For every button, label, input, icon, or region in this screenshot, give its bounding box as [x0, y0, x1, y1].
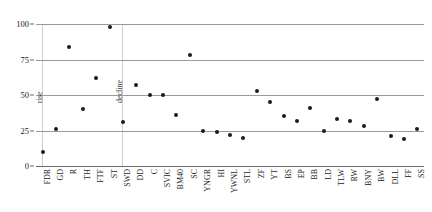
data-point	[174, 113, 178, 117]
x-tick-label-st: ST	[110, 169, 119, 178]
y-tick-label-25: 25	[21, 126, 30, 136]
y-tick-mark-50	[30, 95, 34, 96]
plot-area: risedecline	[36, 24, 424, 166]
x-tick-label-dll: DLL	[391, 169, 400, 185]
data-point	[335, 117, 339, 121]
data-point	[161, 93, 165, 97]
x-tick-label-svic: SVIC	[163, 169, 172, 187]
data-point	[348, 119, 352, 123]
data-point	[282, 114, 286, 118]
data-point	[201, 129, 205, 133]
data-point	[121, 120, 125, 124]
scatter-chart: 0255075100 risedecline FDRGDRTHFTFSTSWDD…	[0, 0, 432, 212]
x-tick-label-stl: STL	[243, 169, 252, 183]
x-tick-label-dd: DD	[136, 169, 145, 181]
data-point	[148, 93, 152, 97]
x-tick-label-yngr: YNGR	[203, 169, 212, 192]
x-tick-label-ywnl: YWNL	[230, 169, 239, 193]
x-tick-label-r: R	[69, 169, 78, 174]
x-tick-label-ftf: FTF	[96, 169, 105, 183]
data-point	[241, 136, 245, 140]
y-tick-label-0: 0	[25, 161, 29, 171]
data-point	[188, 53, 192, 57]
x-axis: FDRGDRTHFTFSTSWDDDCSVICBM40SCYNGRHIYWNLS…	[36, 167, 424, 212]
data-point	[308, 106, 312, 110]
x-tick-label-fdr: FDR	[43, 169, 52, 185]
y-tick-mark-100	[30, 24, 34, 25]
x-tick-label-swd: SWD	[123, 169, 132, 187]
gridline-25	[36, 131, 424, 132]
data-point	[81, 107, 85, 111]
y-tick-mark-0	[30, 166, 34, 167]
y-tick-label-100: 100	[16, 19, 29, 29]
y-tick-label-75: 75	[21, 55, 30, 65]
x-tick-label-ff: FF	[404, 169, 413, 178]
y-tick-mark-75	[30, 59, 34, 60]
x-tick-label-ep: EP	[297, 169, 306, 178]
data-point	[108, 25, 112, 29]
data-point	[215, 130, 219, 134]
data-point	[228, 133, 232, 137]
data-point	[94, 76, 98, 80]
x-tick-label-yt: YT	[270, 169, 279, 180]
x-tick-label-ld: LD	[324, 169, 333, 180]
y-axis: 0255075100	[0, 24, 34, 166]
gridline-50	[36, 95, 424, 96]
x-tick-label-gd: GD	[56, 169, 65, 181]
x-tick-label-hi: HI	[217, 169, 226, 177]
y-tick-mark-25	[30, 130, 34, 131]
data-point	[295, 119, 299, 123]
data-point	[389, 134, 393, 138]
x-tick-label-bs: BS	[284, 169, 293, 179]
data-point	[268, 100, 272, 104]
x-tick-label-th: TH	[83, 169, 92, 180]
data-point	[67, 45, 71, 49]
data-point	[362, 124, 366, 128]
data-point	[41, 150, 45, 154]
data-point	[134, 83, 138, 87]
data-point	[375, 97, 379, 101]
x-tick-label-bm40: BM40	[176, 169, 185, 189]
x-tick-label-c: C	[150, 169, 159, 174]
data-point	[255, 89, 259, 93]
x-tick-label-zf: ZF	[257, 169, 266, 178]
x-tick-label-ss: SS	[417, 169, 426, 178]
x-tick-label-bw: BW	[377, 169, 386, 182]
x-tick-label-bny: BNY	[364, 169, 373, 186]
x-tick-label-bb: BB	[310, 169, 319, 180]
data-point	[322, 129, 326, 133]
gridline-75	[36, 60, 424, 61]
data-point	[402, 137, 406, 141]
x-tick-label-rw: RW	[350, 169, 359, 181]
x-tick-label-sc: SC	[190, 169, 199, 179]
x-tick-label-tlw: TLW	[337, 169, 346, 186]
annotation-decline: decline	[115, 80, 124, 103]
data-point	[54, 127, 58, 131]
data-point	[415, 127, 419, 131]
y-tick-label-50: 50	[21, 90, 30, 100]
annotation-rise: rise	[35, 91, 44, 103]
gridline-100	[36, 24, 424, 25]
